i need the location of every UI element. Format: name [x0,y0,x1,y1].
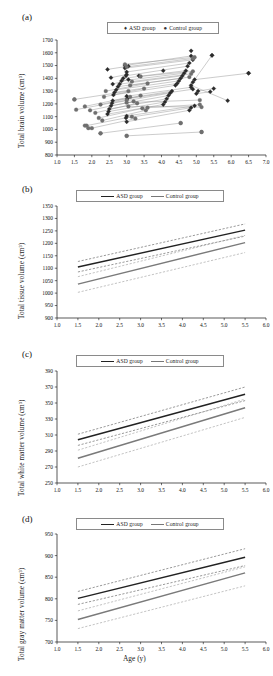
svg-text:1.5: 1.5 [75,487,82,493]
svg-text:3.0: 3.0 [137,646,144,652]
panel-d-xlabel: Age (y) [123,654,146,663]
svg-text:6.5: 6.5 [245,159,252,165]
svg-text:1050: 1050 [42,278,53,284]
svg-text:4.0: 4.0 [179,646,186,652]
svg-text:3.5: 3.5 [158,646,165,652]
svg-text:700: 700 [45,639,53,645]
svg-text:750: 750 [45,617,53,623]
svg-text:3.5: 3.5 [158,487,165,493]
svg-text:330: 330 [45,416,53,422]
svg-text:1.5: 1.5 [71,159,78,165]
panel-a: (a) ♦ ASD group ● Control group Total br… [0,0,273,176]
svg-text:2.5: 2.5 [116,322,123,328]
svg-text:2.5: 2.5 [106,159,113,165]
svg-text:250: 250 [45,480,53,486]
svg-text:7.0: 7.0 [263,159,270,165]
panel-c: (c) ASD group Control group Total white … [0,341,273,506]
svg-text:1200: 1200 [42,101,53,107]
svg-text:310: 310 [45,432,53,438]
svg-text:2.0: 2.0 [95,487,102,493]
svg-text:1.0: 1.0 [54,487,61,493]
svg-text:5.0: 5.0 [221,322,228,328]
svg-text:3.5: 3.5 [158,322,165,328]
svg-text:1300: 1300 [42,88,53,94]
svg-text:6.0: 6.0 [263,646,270,652]
panel-d-plot: 7007508008509009501.01.52.02.53.03.54.04… [0,506,273,676]
svg-text:6.0: 6.0 [228,159,235,165]
svg-text:850: 850 [45,574,53,580]
svg-text:1.0: 1.0 [54,322,61,328]
svg-text:5.5: 5.5 [210,159,217,165]
svg-text:6.0: 6.0 [263,487,270,493]
svg-text:1.0: 1.0 [54,159,61,165]
svg-text:370: 370 [45,384,53,390]
svg-text:2.5: 2.5 [116,487,123,493]
svg-text:1.5: 1.5 [75,646,82,652]
svg-text:1100: 1100 [42,114,53,120]
svg-text:2.0: 2.0 [95,322,102,328]
svg-text:950: 950 [45,302,53,308]
svg-text:1300: 1300 [42,215,53,221]
svg-text:5.5: 5.5 [242,646,249,652]
svg-text:800: 800 [45,596,53,602]
svg-text:1700: 1700 [42,37,53,43]
panel-c-plot: 2502702903103303503703901.01.52.02.53.03… [0,341,273,506]
svg-text:3.0: 3.0 [137,322,144,328]
panel-b: (b) ASD group Control group Total tissue… [0,176,273,341]
svg-text:1100: 1100 [42,265,53,271]
svg-text:2.0: 2.0 [95,646,102,652]
svg-text:900: 900 [45,139,53,145]
svg-text:2.0: 2.0 [88,159,95,165]
svg-text:4.0: 4.0 [179,487,186,493]
svg-text:1500: 1500 [42,62,53,68]
svg-text:2.5: 2.5 [116,646,123,652]
svg-text:4.0: 4.0 [158,159,165,165]
panel-a-plot: 800900100011001200130014001500160017001.… [0,0,273,176]
svg-text:4.5: 4.5 [200,646,207,652]
svg-text:290: 290 [45,448,53,454]
svg-text:1150: 1150 [42,253,53,259]
svg-text:5.5: 5.5 [242,322,249,328]
svg-text:5.0: 5.0 [221,646,228,652]
svg-text:3.0: 3.0 [123,159,130,165]
svg-text:4.5: 4.5 [200,322,207,328]
panel-d: (d) ASD group Control group Total gray m… [0,506,273,676]
svg-text:4.5: 4.5 [176,159,183,165]
svg-text:5.0: 5.0 [221,487,228,493]
svg-text:4.0: 4.0 [179,322,186,328]
svg-text:1250: 1250 [42,228,53,234]
svg-text:900: 900 [45,553,53,559]
svg-text:1600: 1600 [42,50,53,56]
svg-text:6.0: 6.0 [263,322,270,328]
svg-text:5.0: 5.0 [193,159,200,165]
svg-text:1.5: 1.5 [75,322,82,328]
svg-text:950: 950 [45,531,53,537]
svg-text:390: 390 [45,368,53,374]
svg-text:1200: 1200 [42,240,53,246]
svg-text:800: 800 [45,152,53,158]
svg-text:900: 900 [45,315,53,321]
figure-root: (a) ♦ ASD group ● Control group Total br… [0,0,273,676]
svg-text:5.5: 5.5 [242,487,249,493]
svg-text:1400: 1400 [42,75,53,81]
svg-text:270: 270 [45,464,53,470]
svg-text:3.5: 3.5 [141,159,148,165]
svg-text:1000: 1000 [42,126,53,132]
svg-text:350: 350 [45,400,53,406]
svg-text:1000: 1000 [42,290,53,296]
svg-text:1350: 1350 [42,203,53,209]
svg-text:3.0: 3.0 [137,487,144,493]
svg-text:4.5: 4.5 [200,487,207,493]
panel-b-plot: 900950100010501100115012001250130013501.… [0,176,273,341]
svg-text:1.0: 1.0 [54,646,61,652]
